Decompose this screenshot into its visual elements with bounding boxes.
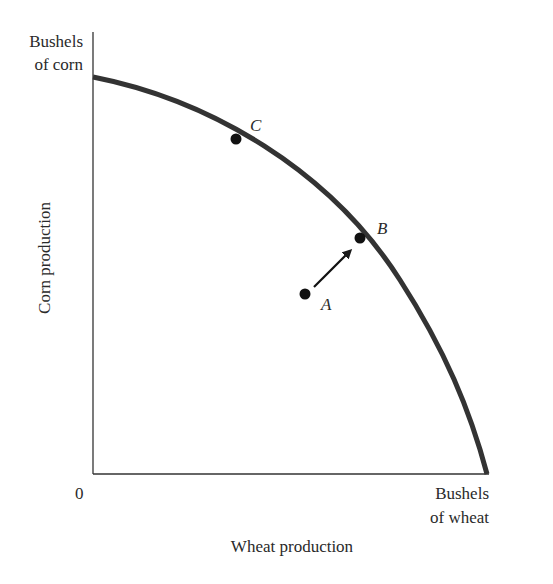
y-axis-end-label-line2: of corn <box>34 55 83 74</box>
point-a <box>300 289 311 300</box>
arrow-a-to-b <box>314 251 350 287</box>
point-a-label: A <box>320 295 332 314</box>
ppf-curve <box>93 77 487 474</box>
point-b <box>355 233 366 244</box>
origin-label: 0 <box>75 484 84 503</box>
point-b-label: B <box>377 219 388 238</box>
point-c <box>231 134 242 145</box>
y-axis-title: Corn production <box>35 202 54 314</box>
ppf-chart: C B A Bushels of corn Corn production 0 … <box>0 0 553 584</box>
y-axis-end-label-line1: Bushels <box>29 32 83 51</box>
x-axis-end-label-line2: of wheat <box>430 508 489 527</box>
x-axis-end-label-line1: Bushels <box>435 484 489 503</box>
point-c-label: C <box>250 116 262 135</box>
x-axis-title: Wheat production <box>231 537 354 556</box>
